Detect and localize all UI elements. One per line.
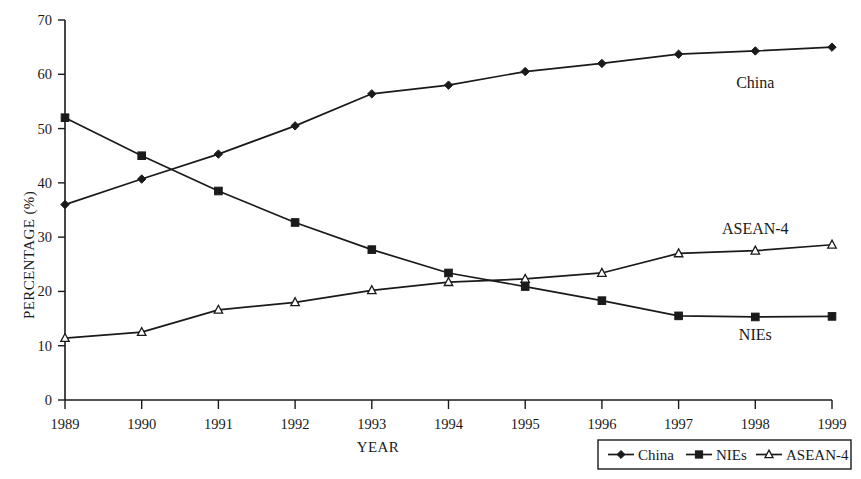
series-asean-4 bbox=[61, 240, 836, 341]
x-tick-label: 1992 bbox=[281, 416, 310, 432]
y-tick-label: 70 bbox=[38, 12, 53, 28]
marker-diamond bbox=[674, 50, 682, 58]
marker-diamond bbox=[368, 90, 376, 98]
annotation-asean-4: ASEAN-4 bbox=[722, 220, 789, 237]
x-tick-label: 1998 bbox=[741, 416, 770, 432]
y-tick-label: 20 bbox=[38, 283, 53, 299]
marker-diamond bbox=[751, 47, 759, 55]
marker-square bbox=[598, 297, 606, 305]
y-tick-label: 50 bbox=[38, 121, 53, 137]
marker-square bbox=[445, 269, 453, 277]
legend-label: China bbox=[638, 447, 674, 463]
marker-square bbox=[828, 313, 836, 321]
marker-square bbox=[368, 246, 376, 254]
x-axis-ticks bbox=[65, 400, 832, 409]
marker-diamond bbox=[291, 122, 299, 130]
series-layer bbox=[61, 43, 836, 341]
marker-diamond bbox=[444, 81, 452, 89]
series-polyline bbox=[65, 118, 832, 317]
x-tick-label: 1994 bbox=[434, 416, 464, 432]
marker-square bbox=[215, 187, 223, 195]
legend-label: NIEs bbox=[716, 447, 747, 463]
y-axis-ticks bbox=[58, 20, 65, 400]
marker-square bbox=[675, 312, 683, 320]
marker-square bbox=[138, 152, 146, 160]
marker-square bbox=[521, 283, 529, 291]
y-tick-label: 30 bbox=[38, 229, 53, 245]
marker-square bbox=[752, 313, 760, 321]
marker-square bbox=[291, 219, 299, 227]
x-tick-label: 1990 bbox=[127, 416, 156, 432]
y-axis-tick-labels: 010203040506070 bbox=[38, 12, 53, 408]
chart-canvas: 010203040506070 198919901991199219931994… bbox=[0, 0, 861, 479]
x-tick-label: 1989 bbox=[51, 416, 80, 432]
marker-diamond bbox=[598, 59, 606, 67]
marker-diamond bbox=[214, 150, 222, 158]
y-tick-label: 0 bbox=[45, 392, 52, 408]
series-china bbox=[61, 43, 836, 209]
x-tick-label: 1995 bbox=[511, 416, 540, 432]
series-annotations: ChinaASEAN-4NIEs bbox=[722, 74, 789, 343]
x-tick-label: 1999 bbox=[818, 416, 847, 432]
x-tick-label: 1991 bbox=[204, 416, 233, 432]
x-tick-label: 1993 bbox=[357, 416, 386, 432]
chart-legend[interactable]: ChinaNIEsASEAN-4 bbox=[598, 440, 851, 469]
series-polyline bbox=[65, 245, 832, 338]
line-chart-figure: 010203040506070 198919901991199219931994… bbox=[0, 0, 861, 479]
marker-diamond bbox=[61, 200, 69, 208]
annotation-china: China bbox=[736, 74, 774, 91]
legend-label: ASEAN-4 bbox=[786, 447, 849, 463]
x-tick-label: 1996 bbox=[587, 416, 616, 432]
marker-diamond bbox=[521, 67, 529, 75]
x-axis-title: YEAR bbox=[357, 439, 399, 455]
annotation-nies: NIEs bbox=[739, 326, 772, 343]
x-axis-tick-labels: 1989199019911992199319941995199619971998… bbox=[51, 416, 847, 432]
marker-square bbox=[695, 451, 702, 458]
marker-triangle bbox=[828, 240, 836, 248]
y-tick-label: 10 bbox=[38, 338, 53, 354]
marker-square bbox=[61, 114, 69, 122]
y-axis-title: PERCENTAGE (%) bbox=[21, 191, 38, 319]
series-polyline bbox=[65, 47, 832, 204]
y-tick-label: 40 bbox=[38, 175, 53, 191]
marker-diamond bbox=[828, 43, 836, 51]
marker-diamond bbox=[138, 175, 146, 183]
y-tick-label: 60 bbox=[38, 66, 53, 82]
x-tick-label: 1997 bbox=[664, 416, 693, 432]
series-nies bbox=[61, 114, 836, 321]
